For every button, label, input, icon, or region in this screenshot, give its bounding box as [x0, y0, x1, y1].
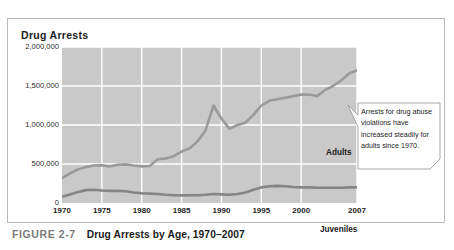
gridlines: [62, 47, 357, 203]
x-axis-tick-label: 1990: [213, 206, 231, 215]
y-axis-tick-label: 2,000,000: [1, 42, 59, 51]
x-axis-tick-label: 1980: [133, 206, 151, 215]
y-axis-tick-label: 0: [1, 198, 59, 207]
y-axis-tick-label: 500,000: [1, 159, 59, 168]
x-axis-tick-label: 1985: [173, 206, 191, 215]
x-axis: 19701975198019851990199520002007: [62, 206, 362, 220]
series-line-juveniles: [62, 186, 357, 197]
series-paths: [62, 70, 357, 196]
callout-box: Arrests for drug abuse violations have i…: [344, 97, 444, 175]
series-label-juveniles: Juveniles: [320, 225, 357, 234]
y-axis: 2,000,0001,500,0001,000,000500,0000: [0, 47, 59, 203]
x-axis-tick-label: 1970: [53, 206, 71, 215]
caption-text: Drug Arrests by Age, 1970–2007: [87, 229, 245, 240]
x-axis-tick-label: 2000: [292, 206, 310, 215]
y-axis-tick-label: 1,500,000: [1, 81, 59, 90]
callout-text: Arrests for drug abuse violations have i…: [361, 106, 435, 152]
chart-title: Drug Arrests: [21, 29, 88, 41]
x-axis-tick-label: 1975: [93, 206, 111, 215]
plot-svg: [62, 47, 357, 203]
plot-area: Adults Juveniles: [62, 47, 357, 203]
figure-caption: FIGURE 2-7 Drug Arrests by Age, 1970–200…: [12, 228, 245, 240]
x-axis-tick-label: 1995: [252, 206, 270, 215]
x-axis-tick-label: 2007: [348, 206, 366, 215]
y-axis-tick-label: 1,000,000: [1, 120, 59, 129]
caption-label: FIGURE 2-7: [12, 228, 76, 240]
figure-container: Drug Arrests 2,000,0001,500,0001,000,000…: [0, 0, 454, 250]
